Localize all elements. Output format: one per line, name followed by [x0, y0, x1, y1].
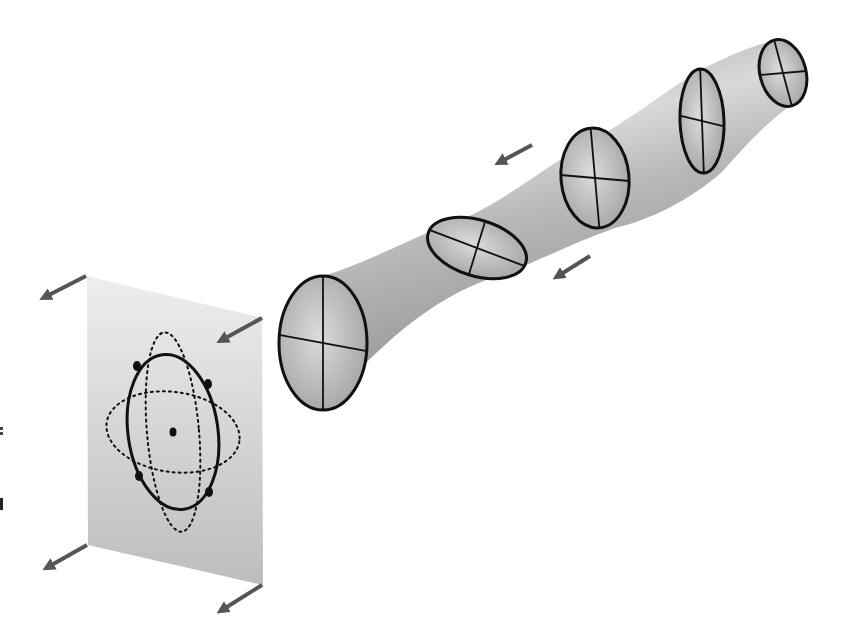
- detector-plate: [87, 276, 263, 585]
- wave-diagram: [0, 0, 843, 643]
- arrow-tube-lower-icon: [558, 256, 590, 276]
- particle-dot: [135, 471, 143, 481]
- arrow-tube-upper-icon: [500, 145, 532, 162]
- arrow-plate-bottom-right-icon: [222, 585, 262, 610]
- edge-artifact-upper: [0, 427, 3, 430]
- cross-section-ellipse: [279, 276, 367, 410]
- edge-artifact-upper-2: [0, 432, 3, 435]
- edge-artifact-lower: [0, 498, 3, 510]
- particle-dot: [204, 379, 212, 389]
- particle-dot: [205, 487, 213, 497]
- particle-dot: [133, 361, 141, 371]
- center-point: [170, 428, 177, 437]
- arrow-plate-top-left-icon: [45, 276, 86, 297]
- arrow-plate-bottom-left-icon: [48, 545, 87, 567]
